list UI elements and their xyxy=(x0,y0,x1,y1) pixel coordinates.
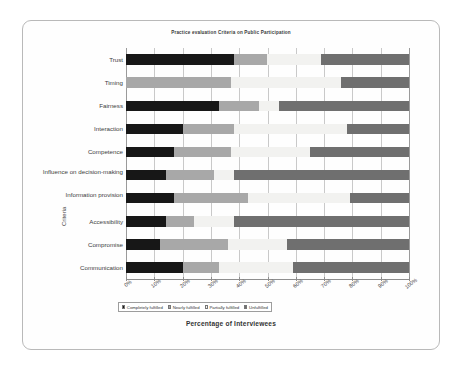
bar-segment xyxy=(166,216,194,227)
x-tick-label: 0% xyxy=(123,279,133,289)
bar-segment xyxy=(160,239,228,250)
chart-legend: Completely fulfilledNearly fulfilledPart… xyxy=(118,302,272,312)
bar-segment xyxy=(234,170,409,181)
bar-segment xyxy=(214,170,234,181)
y-axis-label: Communication xyxy=(27,264,123,271)
bar-rows xyxy=(126,48,409,279)
bar-segment xyxy=(126,124,183,135)
bar-row xyxy=(126,54,409,65)
legend-label: Unfulfilled xyxy=(249,305,268,310)
bar-row xyxy=(126,77,409,88)
legend-swatch-icon xyxy=(122,305,125,308)
legend-item: Partially fulfilled xyxy=(205,305,240,310)
bar-segment xyxy=(279,101,409,112)
legend-item: Unfulfilled xyxy=(244,305,268,310)
bar-segment xyxy=(219,262,293,273)
y-axis-label: Compromise xyxy=(27,241,123,248)
bar-segment xyxy=(231,147,310,158)
y-axis-label: Information provision xyxy=(27,191,123,198)
bar-segment xyxy=(310,147,409,158)
bar-segment xyxy=(231,77,341,88)
bar-segment xyxy=(234,124,347,135)
bar-row xyxy=(126,124,409,135)
plot-area xyxy=(126,48,409,279)
bar-row xyxy=(126,101,409,112)
y-axis-label: Influence on decision-making xyxy=(27,168,123,175)
bar-segment xyxy=(347,124,409,135)
bar-segment xyxy=(126,193,174,204)
bar-segment xyxy=(293,262,409,273)
legend-swatch-icon xyxy=(168,305,171,308)
bar-segment xyxy=(194,216,234,227)
bar-segment xyxy=(126,147,174,158)
bar-row xyxy=(126,170,409,181)
y-axis-category-labels: TrustTimingFairnessInteractionCompetence… xyxy=(23,48,123,279)
bar-segment xyxy=(341,77,409,88)
y-axis-label: Fairness xyxy=(27,102,123,109)
y-axis-label: Interaction xyxy=(27,125,123,132)
x-axis-title: Percentage of Interviewees xyxy=(23,320,439,327)
y-axis-label: Accessibility xyxy=(27,218,123,225)
y-axis-title: Criteria xyxy=(61,207,67,226)
bar-segment xyxy=(183,262,220,273)
chart-figure: Practice evaluation Criteria on Public P… xyxy=(22,20,440,350)
bar-row xyxy=(126,239,409,250)
legend-item: Completely fulfilled xyxy=(122,305,163,310)
bar-row xyxy=(126,147,409,158)
gridline-100 xyxy=(409,48,410,279)
bar-segment xyxy=(234,216,409,227)
y-axis-label: Competence xyxy=(27,148,123,155)
legend-swatch-icon xyxy=(244,305,247,308)
bar-row xyxy=(126,193,409,204)
bar-row xyxy=(126,216,409,227)
bar-segment xyxy=(321,54,409,65)
bar-segment xyxy=(126,239,160,250)
legend-swatch-icon xyxy=(205,305,208,308)
y-axis-label: Timing xyxy=(27,79,123,86)
legend-label: Completely fulfilled xyxy=(127,305,163,310)
bar-segment xyxy=(259,101,279,112)
bar-segment xyxy=(228,239,287,250)
bar-segment xyxy=(126,262,183,273)
bar-segment xyxy=(183,124,234,135)
bar-segment xyxy=(350,193,409,204)
bar-segment xyxy=(234,54,268,65)
bar-segment xyxy=(166,170,214,181)
bar-segment xyxy=(126,170,166,181)
bar-row xyxy=(126,262,409,273)
bar-segment xyxy=(174,147,231,158)
bar-segment xyxy=(219,101,259,112)
bar-segment xyxy=(126,77,231,88)
y-axis-label: Trust xyxy=(27,56,123,63)
bar-segment xyxy=(267,54,321,65)
legend-label: Nearly fulfilled xyxy=(173,305,200,310)
bar-segment xyxy=(287,239,409,250)
x-axis-tick-labels: 0%10%20%30%40%50%60%70%80%90%100% xyxy=(126,281,409,293)
bar-segment xyxy=(248,193,350,204)
bar-segment xyxy=(126,216,166,227)
legend-item: Nearly fulfilled xyxy=(168,305,200,310)
bar-segment xyxy=(174,193,248,204)
legend-label: Partially fulfilled xyxy=(209,305,239,310)
bar-segment xyxy=(126,101,219,112)
bar-segment xyxy=(126,54,234,65)
chart-title: Practice evaluation Criteria on Public P… xyxy=(23,30,439,35)
